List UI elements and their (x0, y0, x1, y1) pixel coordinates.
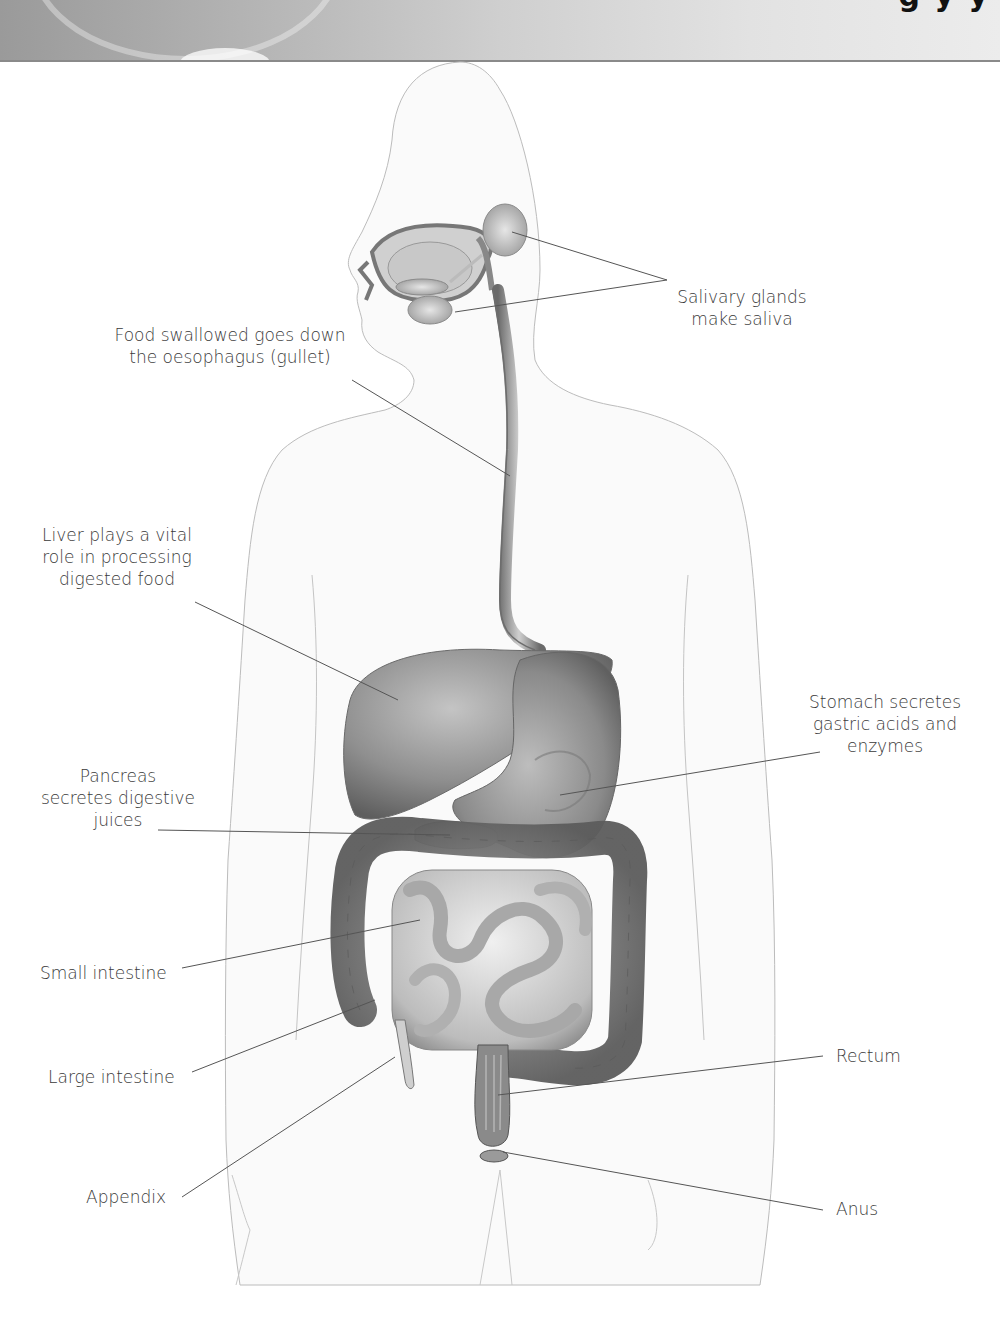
label-rectum: Rectum (836, 1045, 901, 1067)
label-stomach: Stomach secretes gastric acids and enzym… (795, 691, 975, 757)
label-small-intestine: Small intestine (40, 962, 167, 984)
rectum (475, 1045, 510, 1146)
label-salivary-glands: Salivary glands make saliva (657, 286, 827, 330)
label-pancreas: Pancreas secretes digestive juices (28, 765, 208, 831)
small-intestine (392, 870, 592, 1050)
label-large-intestine: Large intestine (48, 1066, 175, 1088)
label-appendix: Appendix (86, 1186, 166, 1208)
label-anus: Anus (836, 1198, 878, 1220)
label-oesophagus: Food swallowed goes down the oesophagus … (95, 324, 365, 368)
label-liver: Liver plays a vital role in processing d… (22, 524, 212, 590)
digestive-system-illustration (0, 0, 1000, 1333)
